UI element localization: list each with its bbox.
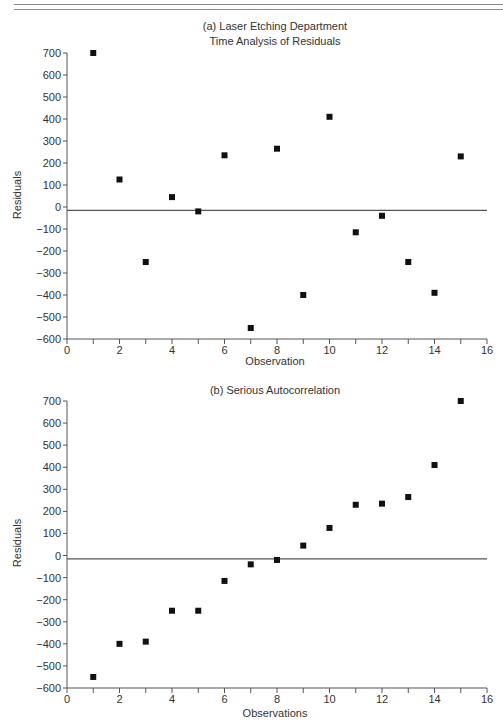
y-tick-label: 100: [43, 527, 61, 539]
data-point: [379, 213, 385, 219]
chart-b-title: (b) Serious Autocorrelation: [210, 384, 340, 396]
chart-b-plot: 7006005004003002001000−100−200−300−400−5…: [36, 395, 493, 705]
y-tick-label: 0: [55, 201, 61, 213]
y-tick-label: −500: [36, 660, 61, 672]
data-point: [169, 194, 175, 200]
x-tick-label: 14: [428, 693, 440, 705]
chart-b-xlabel: Observations: [243, 707, 308, 719]
x-tick-label: 12: [376, 344, 388, 356]
y-tick-label: −400: [36, 289, 61, 301]
chart-a-subtitle: Time Analysis of Residuals: [209, 35, 341, 47]
y-tick-label: 400: [43, 461, 61, 473]
data-point: [327, 525, 333, 531]
data-point: [143, 259, 149, 265]
x-tick-label: 10: [323, 344, 335, 356]
x-tick-label: 12: [376, 693, 388, 705]
data-point: [143, 639, 149, 645]
y-tick-label: 500: [43, 439, 61, 451]
y-tick-label: 300: [43, 135, 61, 147]
chart-a-ylabel: Residuals: [11, 170, 23, 219]
x-tick-label: 16: [481, 693, 493, 705]
data-point: [274, 146, 280, 152]
chart-laser-etching-residuals: (a) Laser Etching Department Time Analys…: [0, 0, 503, 726]
x-tick-label: 4: [169, 344, 175, 356]
y-tick-label: −200: [36, 245, 61, 257]
data-point: [300, 543, 306, 549]
y-tick-label: −400: [36, 638, 61, 650]
data-point: [90, 50, 96, 56]
x-tick-label: 4: [169, 693, 175, 705]
data-point: [90, 674, 96, 680]
data-point: [222, 578, 228, 584]
y-tick-label: −300: [36, 616, 61, 628]
chart-a-plot: 7006005004003002001000−100−200−300−400−5…: [36, 47, 493, 356]
y-tick-label: 600: [43, 417, 61, 429]
x-tick-label: 10: [323, 693, 335, 705]
y-tick-label: 700: [43, 47, 61, 59]
data-point: [117, 641, 123, 647]
y-tick-label: −200: [36, 594, 61, 606]
x-tick-label: 0: [64, 344, 70, 356]
y-tick-label: −100: [36, 223, 61, 235]
x-tick-label: 6: [221, 693, 227, 705]
y-tick-label: 600: [43, 69, 61, 81]
chart-a-xlabel: Observation: [245, 355, 304, 367]
x-tick-label: 2: [116, 344, 122, 356]
y-tick-label: 500: [43, 91, 61, 103]
y-tick-label: −500: [36, 311, 61, 323]
data-point: [222, 152, 228, 158]
chart-a-title: (a) Laser Etching Department: [203, 20, 347, 32]
data-point: [248, 561, 254, 567]
data-point: [169, 608, 175, 614]
data-point: [353, 502, 359, 508]
y-tick-label: −300: [36, 267, 61, 279]
x-tick-label: 2: [116, 693, 122, 705]
x-tick-label: 6: [221, 344, 227, 356]
y-tick-label: 400: [43, 113, 61, 125]
data-point: [432, 462, 438, 468]
data-point: [274, 557, 280, 563]
x-tick-label: 16: [481, 344, 493, 356]
y-tick-label: 200: [43, 157, 61, 169]
data-point: [300, 292, 306, 298]
x-tick-label: 0: [64, 693, 70, 705]
y-tick-label: 700: [43, 395, 61, 407]
data-point: [458, 153, 464, 159]
data-point: [248, 325, 254, 331]
data-point: [353, 229, 359, 235]
data-point: [195, 208, 201, 214]
data-point: [117, 177, 123, 183]
data-point: [379, 501, 385, 507]
data-point: [405, 259, 411, 265]
y-tick-label: 300: [43, 483, 61, 495]
y-tick-label: 200: [43, 505, 61, 517]
data-point: [432, 290, 438, 296]
data-point: [458, 398, 464, 404]
y-tick-label: 100: [43, 179, 61, 191]
y-tick-label: −600: [36, 682, 61, 694]
y-tick-label: −600: [36, 333, 61, 345]
x-tick-label: 14: [428, 344, 440, 356]
y-tick-label: 0: [55, 550, 61, 562]
data-point: [327, 114, 333, 120]
y-tick-label: −100: [36, 572, 61, 584]
x-tick-label: 8: [274, 693, 280, 705]
data-point: [195, 608, 201, 614]
data-point: [405, 494, 411, 500]
chart-b-ylabel: Residuals: [11, 518, 23, 567]
